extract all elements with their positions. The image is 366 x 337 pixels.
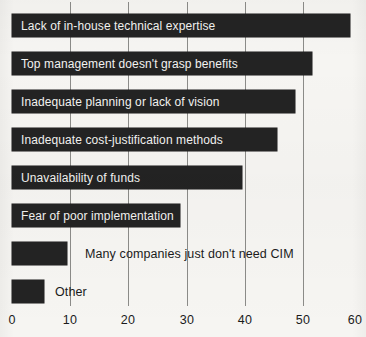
bar-7 [12, 280, 44, 303]
bar-label-6: Many companies just don't need CIM [85, 247, 294, 261]
xtick-label-40: 40 [238, 313, 252, 327]
gridline-10 [70, 2, 71, 306]
xtick-label-30: 30 [180, 313, 194, 327]
bar-1: Top management doesn't grasp benefits [12, 52, 312, 75]
bar-3: Inadequate cost-justification methods [12, 128, 277, 151]
plot-area: Lack of in-house technical expertise Top… [0, 0, 366, 337]
xtick-label-10: 10 [63, 313, 77, 327]
bar-5: Fear of poor implementation [12, 204, 180, 227]
bar-label-0: Lack of in-house technical expertise [21, 19, 215, 33]
bar-label-4: Unavailability of funds [21, 171, 140, 185]
bar-2: Inadequate planning or lack of vision [12, 90, 295, 113]
bar-label-5: Fear of poor implementation [21, 209, 174, 223]
xtick-label-20: 20 [121, 313, 135, 327]
bar-0: Lack of in-house technical expertise [12, 14, 350, 37]
bar-chart: Lack of in-house technical expertise Top… [0, 0, 366, 337]
gridline-50 [303, 2, 304, 306]
bar-label-1: Top management doesn't grasp benefits [21, 57, 238, 71]
bar-label-7: Other [55, 285, 87, 299]
bar-6 [12, 242, 67, 265]
bar-label-3: Inadequate cost-justification methods [21, 133, 223, 147]
bar-4: Unavailability of funds [12, 166, 242, 189]
xtick-label-0: 0 [8, 313, 15, 327]
bar-label-2: Inadequate planning or lack of vision [21, 95, 220, 109]
xtick-label-60: 60 [348, 313, 362, 327]
xtick-label-50: 50 [296, 313, 310, 327]
